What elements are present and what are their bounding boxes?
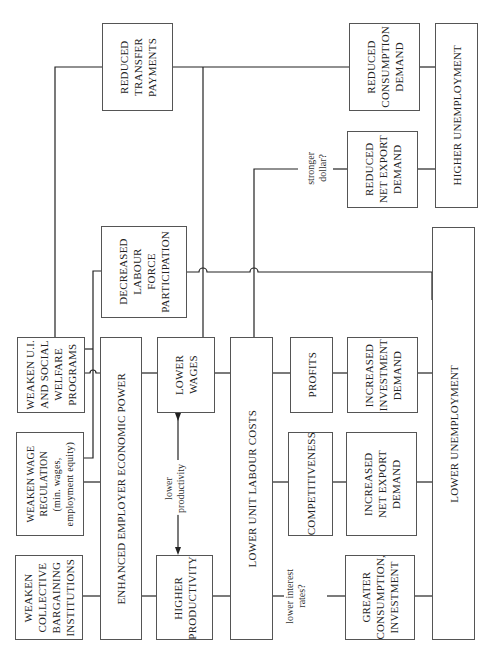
weaken-collective-bargaining-box: WEAKEN COLLECTIVE BARGAINING INSTITUTION… [15,555,83,640]
higher-unemployment-box: HIGHER UNEMPLOYMENT [435,23,478,208]
decreased-labour-force-label: DECREASED LABOUR FORCE PARTICIPATION [116,231,172,313]
weaken-collective-bargaining-label: WEAKEN COLLECTIVE BARGAINING INSTITUTION… [21,559,77,637]
lower-unemployment-label: LOWER UNEMPLOYMENT [447,365,461,503]
reduced-net-export-demand-box: REDUCED NET EXPORT DEMAND [347,131,418,208]
enhanced-employer-power-box: ENHANCED EMPLOYER ECONOMIC POWER [100,337,142,640]
profits-label: PROFITS [305,352,319,397]
lower-productivity-annotation: lower productivity [163,462,187,515]
stronger-dollar-annotation: stronger dollar? [305,150,329,187]
lower-unemployment-box: LOWER UNEMPLOYMENT [432,227,475,640]
weaken-wage-regulation-box: WEAKEN WAGE REGULATION (min. wages, empl… [16,432,84,536]
increased-net-export-demand-label: INCREASED NET EXPORT DEMAND [361,450,403,518]
increased-net-export-demand-box: INCREASED NET EXPORT DEMAND [346,432,417,536]
increased-investment-demand-label: INCREASED INVESTMENT DEMAND [362,339,404,411]
reduced-consumption-demand-box: REDUCED CONSUMPTION DEMAND [349,23,420,111]
higher-productivity-label: HIGHER PRODUCTIVITY [171,556,199,640]
diagram: WEAKEN U.I. AND SOCIAL WELFARE PROGRAMS … [0,0,492,661]
weaken-wage-regulation-label: WEAKEN WAGE REGULATION (min. wages, empl… [24,442,76,526]
higher-unemployment-label: HIGHER UNEMPLOYMENT [450,45,464,185]
enhanced-employer-power-label: ENHANCED EMPLOYER ECONOMIC POWER [114,373,128,605]
greater-consumption-investment-box: GREATER CONSUMPTION, INVESTMENT [345,555,415,640]
competitiveness-label: COMPETITIVENESS [304,432,318,535]
weaken-ui-box: WEAKEN U.I. AND SOCIAL WELFARE PROGRAMS [17,337,85,413]
increased-investment-demand-box: INCREASED INVESTMENT DEMAND [347,337,418,413]
reduced-consumption-demand-label: REDUCED CONSUMPTION DEMAND [364,26,406,108]
competitiveness-box: COMPETITIVENESS [288,432,333,536]
greater-consumption-investment-label: GREATER CONSUMPTION, INVESTMENT [359,555,401,640]
reduced-transfer-payments-box: REDUCED TRANSFER PAYMENTS [102,23,173,111]
lower-unit-labour-costs-box: LOWER UNIT LABOUR COSTS [230,337,273,640]
lower-wages-label: LOWER WAGES [172,355,200,395]
lower-wages-box: LOWER WAGES [157,337,215,413]
decreased-labour-force-box: DECREASED LABOUR FORCE PARTICIPATION [101,226,187,318]
weaken-ui-label: WEAKEN U.I. AND SOCIAL WELFARE PROGRAMS [23,340,79,410]
lower-interest-rates-annotation: lower interest rates? [284,567,308,626]
reduced-transfer-payments-label: REDUCED TRANSFER PAYMENTS [117,38,159,97]
reduced-net-export-demand-label: REDUCED NET EXPORT DEMAND [362,135,404,203]
profits-box: PROFITS [290,337,333,413]
lower-unit-labour-costs-label: LOWER UNIT LABOUR COSTS [245,410,259,567]
higher-productivity-box: HIGHER PRODUCTIVITY [156,555,213,640]
